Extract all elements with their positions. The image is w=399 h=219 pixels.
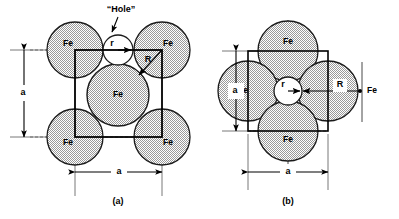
atom-label-right-b: Fe [367, 85, 377, 95]
hole-callout-label: “Hole” [107, 4, 136, 14]
atom-radius-label: R [145, 54, 152, 64]
atom-label-body-center: Fe [113, 89, 123, 99]
panel-b-caption: (b) [282, 196, 294, 206]
hole-radius-label-b: r [281, 79, 285, 89]
atom-label-bottom-right: Fe [163, 137, 173, 147]
atom-label-bottom-left: Fe [63, 137, 73, 147]
panel-a-caption: (a) [113, 196, 124, 206]
atom-center-dot-b [358, 89, 362, 93]
atom-label-top-b: Fe [283, 36, 293, 46]
atom-label-top-left: Fe [63, 38, 73, 48]
atom-label-bottom-b: Fe [283, 134, 293, 144]
crystal-structure-figure: r R “Hole” Fe Fe Fe Fe Fe a a (a) [0, 0, 399, 219]
hole-radius-label: r [110, 38, 114, 48]
atom-radius-label-b: R [337, 79, 344, 89]
atom-label-top-right: Fe [163, 38, 173, 48]
